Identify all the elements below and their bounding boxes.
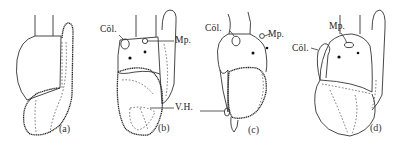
label-b-mp: Mp. bbox=[175, 36, 191, 46]
label-d-col: Cöl. bbox=[292, 44, 309, 54]
label-d-mp: Mp. bbox=[329, 22, 345, 32]
label-b-col: Cöl. bbox=[100, 25, 117, 35]
label-b-vh: V.H. bbox=[175, 103, 193, 113]
caption-d: (d) bbox=[370, 123, 382, 133]
caption-b: (b) bbox=[158, 123, 170, 133]
panel-b-drawing bbox=[117, 10, 176, 135]
figure: Cöl. Mp. V.H. Cöl. Mp. Cöl. Mp. (a) (b) … bbox=[0, 0, 400, 146]
caption-a: (a) bbox=[59, 124, 70, 134]
panel-a-drawing bbox=[16, 15, 73, 135]
panel-d-drawing bbox=[311, 10, 385, 136]
label-c-mp: Mp. bbox=[268, 30, 284, 40]
caption-c: (c) bbox=[248, 125, 259, 135]
label-c-col: Cöl. bbox=[205, 24, 222, 34]
